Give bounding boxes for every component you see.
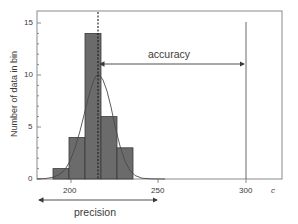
y-axis-ticks <box>37 23 41 179</box>
precision-label: precision <box>74 206 116 218</box>
bar-3 <box>85 33 101 179</box>
bar-5 <box>117 148 133 179</box>
accuracy-label: accuracy <box>148 48 190 60</box>
y-tick-15: 15 <box>24 18 33 27</box>
x-axis-label: c <box>271 186 275 195</box>
histogram-bars <box>53 33 133 179</box>
x-tick-200: 200 <box>63 186 76 195</box>
histogram-chart <box>0 0 298 224</box>
x-tick-300: 300 <box>239 186 252 195</box>
y-tick-5: 5 <box>28 122 32 131</box>
y-tick-10: 10 <box>24 70 33 79</box>
y-axis-label: Number of data in bin <box>9 44 19 144</box>
y-tick-0: 0 <box>28 174 32 183</box>
x-tick-250: 250 <box>151 186 164 195</box>
bar-1 <box>53 169 69 179</box>
x-axis-ticks <box>71 179 246 183</box>
